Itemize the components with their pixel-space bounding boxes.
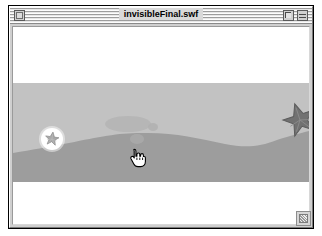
hidden-object-blob[interactable] — [105, 116, 151, 132]
window-content-area — [12, 26, 310, 225]
collapse-icon-line2 — [299, 17, 306, 18]
starfish-found[interactable] — [39, 126, 65, 152]
sky-band — [13, 27, 309, 83]
window-title-label: invisibleFinal.swf — [119, 8, 204, 20]
hidden-object-dot-b[interactable] — [130, 134, 144, 144]
window-title: invisibleFinal.swf — [10, 9, 312, 19]
zoom-icon — [285, 12, 291, 18]
close-box-button[interactable] — [14, 10, 25, 21]
hidden-object-dot-a[interactable] — [148, 123, 158, 131]
collapse-icon — [299, 14, 306, 15]
application-window: invisibleFinal.swf — [8, 5, 314, 229]
close-icon — [16, 12, 23, 19]
zoom-box-button[interactable] — [283, 10, 294, 21]
flash-movie-stage[interactable] — [13, 27, 309, 224]
titlebar-right-controls — [283, 10, 308, 21]
desktop-background: invisibleFinal.swf — [0, 0, 322, 236]
window-titlebar[interactable]: invisibleFinal.swf — [10, 7, 312, 24]
bottom-band — [13, 182, 309, 224]
grow-box[interactable] — [296, 211, 311, 226]
collapse-box-button[interactable] — [297, 10, 308, 21]
resize-icon — [299, 214, 308, 223]
